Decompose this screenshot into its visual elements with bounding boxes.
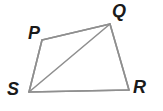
vertex-label-p: P [28,24,40,42]
vertex-label-r: R [133,78,146,96]
vertex-label-s: S [7,80,19,98]
geometry-figure: P Q R S [0,0,163,111]
vertex-label-q: Q [112,2,126,20]
